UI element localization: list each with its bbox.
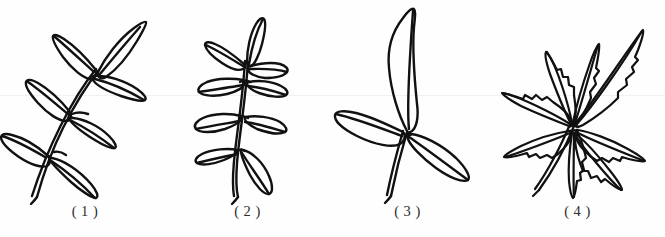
figure-3-caption: ( 3 ) [325,203,490,220]
figure-3: ( 3 ) [325,0,490,237]
leaf-drawing-palmate-serrated [490,0,665,210]
figure-4: ( 4 ) [490,0,665,237]
figure-4-caption: ( 4 ) [490,203,665,220]
leaf-drawing-trifoliate [325,0,490,210]
figure-plate: ( 1 ) [0,0,665,237]
leaf-drawing-pinnate-oblique [0,0,170,210]
figure-1-caption: ( 1 ) [0,203,170,220]
figure-2: ( 2 ) [170,0,325,237]
figure-1: ( 1 ) [0,0,170,237]
leaf-drawing-pinnate-upright [170,0,325,210]
figure-2-caption: ( 2 ) [170,203,325,220]
